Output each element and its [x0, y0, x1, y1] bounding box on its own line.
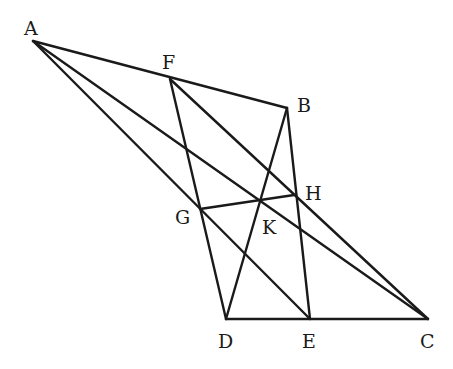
point-label-f: F: [162, 51, 175, 73]
point-label-c: C: [420, 330, 435, 352]
point-label-b: B: [297, 94, 311, 116]
segment-fd: [170, 79, 226, 319]
segment-ab: [33, 41, 287, 108]
point-label-e: E: [302, 330, 316, 352]
point-label-h: H: [305, 182, 322, 204]
labels-group: AFBHGKDEC: [23, 17, 435, 352]
geometry-diagram: AFBHGKDEC: [0, 0, 453, 369]
point-label-g: G: [175, 206, 190, 228]
point-label-d: D: [218, 330, 233, 352]
segment-be: [287, 108, 310, 319]
point-label-a: A: [23, 17, 38, 39]
segment-ac: [33, 41, 428, 319]
segments-group: [33, 41, 428, 319]
point-label-k: K: [262, 216, 277, 238]
segment-gh: [200, 195, 294, 209]
